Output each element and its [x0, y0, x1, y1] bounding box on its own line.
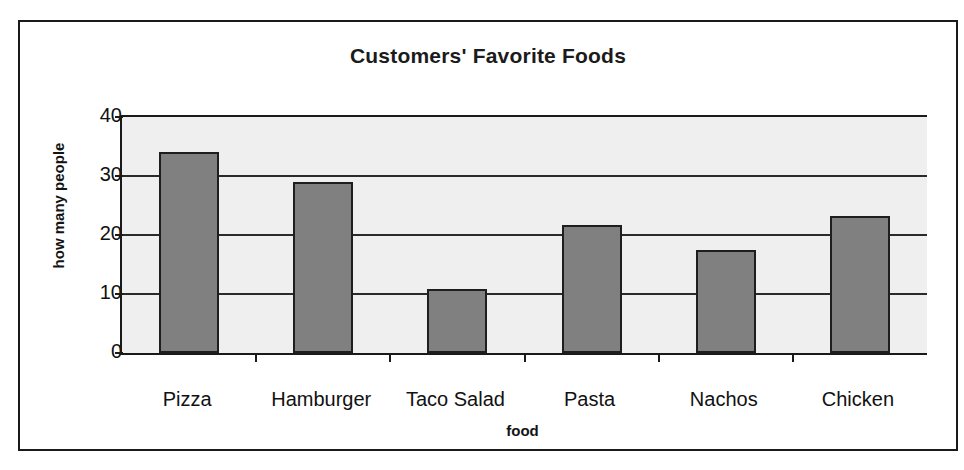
x-axis-tick-label: Pasta	[523, 388, 657, 411]
x-axis-tick-label: Pizza	[120, 388, 254, 411]
chart-title: Customers' Favorite Foods	[20, 44, 956, 68]
bar[interactable]	[159, 152, 219, 353]
x-axis-tick-labels: PizzaHamburgerTaco SaladPastaNachosChick…	[120, 388, 925, 416]
y-axis-tick-label: 40	[78, 104, 122, 127]
y-axis-tick-mark	[115, 234, 123, 236]
y-axis-tick-label: 10	[78, 281, 122, 304]
y-axis-tick-mark	[115, 293, 123, 295]
x-axis-tick-mark	[792, 353, 794, 362]
x-axis-tick-label: Nachos	[657, 388, 791, 411]
y-axis-tick-mark	[115, 175, 123, 177]
bar-slot	[793, 117, 927, 353]
x-axis-tick-mark	[389, 353, 391, 362]
x-axis-tick-mark	[255, 353, 257, 362]
x-axis-tick-mark	[658, 353, 660, 362]
bar-slot	[256, 117, 390, 353]
bar-slot	[525, 117, 659, 353]
x-axis-tick-label: Taco Salad	[388, 388, 522, 411]
x-axis-tick-label: Chicken	[791, 388, 925, 411]
bar-slot	[390, 117, 524, 353]
x-axis-title: food	[120, 422, 925, 439]
bar[interactable]	[830, 216, 890, 353]
bar[interactable]	[562, 225, 622, 353]
bar-slot	[659, 117, 793, 353]
bar[interactable]	[293, 182, 353, 353]
y-axis-tick-label: 0	[78, 340, 122, 363]
plot-area	[120, 115, 927, 355]
bar[interactable]	[427, 289, 487, 353]
x-axis-tick-label: Hamburger	[254, 388, 388, 411]
y-axis-title: how many people	[50, 106, 67, 306]
y-axis-tick-label: 20	[78, 222, 122, 245]
y-axis-tick-mark	[115, 116, 123, 118]
y-axis-tick-label: 30	[78, 163, 122, 186]
y-axis-tick-mark	[115, 352, 123, 354]
bar-slot	[122, 117, 256, 353]
bar[interactable]	[696, 250, 756, 353]
bars-group	[122, 117, 927, 353]
x-axis-tick-mark	[524, 353, 526, 362]
chart-frame: Customers' Favorite Foods how many peopl…	[18, 20, 958, 451]
